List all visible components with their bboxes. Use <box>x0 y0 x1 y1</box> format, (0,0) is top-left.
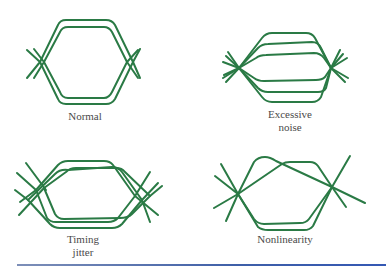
eye-diagram-timing-jitter <box>15 161 162 228</box>
label-excessive-noise: Excessive noise <box>255 108 325 134</box>
label-excessive-noise-line1: Excessive <box>255 108 325 121</box>
bottom-rule-divider <box>17 264 386 266</box>
label-normal: Normal <box>55 110 115 123</box>
label-timing-jitter: Timing jitter <box>55 233 111 259</box>
label-timing-jitter-line2: jitter <box>55 246 111 259</box>
eye-diagram-figure <box>0 0 386 269</box>
label-normal-line1: Normal <box>55 110 115 123</box>
label-timing-jitter-line1: Timing <box>55 233 111 246</box>
eye-diagram-excessive-noise <box>223 33 348 102</box>
label-excessive-noise-line2: noise <box>255 121 325 134</box>
eye-diagram-nonlinearity <box>214 156 365 230</box>
eye-diagram-normal <box>27 20 140 104</box>
label-nonlinearity: Nonlinearity <box>250 233 320 246</box>
label-nonlinearity-line1: Nonlinearity <box>250 233 320 246</box>
